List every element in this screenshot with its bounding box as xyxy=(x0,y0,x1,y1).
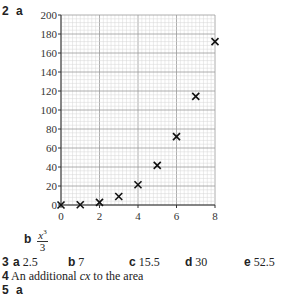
answer-value: 52.5 xyxy=(254,255,275,269)
answer-value: 7 xyxy=(78,255,84,269)
x-tick-label: 4 xyxy=(135,210,141,222)
y-tick-label: 160 xyxy=(41,47,58,59)
y-tick-label: 0 xyxy=(52,199,58,211)
question-number: 3 xyxy=(2,255,9,269)
part-label: a xyxy=(13,255,20,269)
part-label: e xyxy=(244,255,251,269)
part-label: b xyxy=(68,255,75,269)
answer-text: to the area xyxy=(90,269,143,283)
scatter-chart: 02040608010012014016018020002468 xyxy=(0,0,295,230)
answer-value: 30 xyxy=(195,255,207,269)
question-number: 4 xyxy=(2,269,9,283)
question-number: 5 xyxy=(2,283,9,297)
y-tick-label: 80 xyxy=(46,123,58,135)
answer-value: 2.5 xyxy=(23,255,38,269)
y-tick-label: 140 xyxy=(41,66,58,78)
question-5: 5 a xyxy=(2,283,23,297)
question-4: 4 An additional cx to the area xyxy=(2,269,143,283)
x-tick-label: 8 xyxy=(212,210,218,222)
x-tick-label: 2 xyxy=(97,210,103,222)
denominator: 3 xyxy=(37,242,47,253)
question-2b: b x3 3 xyxy=(24,227,48,253)
y-tick-label: 200 xyxy=(41,9,58,21)
part-label: b xyxy=(24,232,31,246)
y-tick-label: 40 xyxy=(46,161,58,173)
x-tick-label: 6 xyxy=(174,210,180,222)
part-label: c xyxy=(129,255,136,269)
x-tick-label: 0 xyxy=(58,210,64,222)
answer-value: 15.5 xyxy=(139,255,160,269)
y-tick-label: 120 xyxy=(41,85,58,97)
part-label: d xyxy=(185,255,192,269)
answer-math: cx xyxy=(80,269,91,283)
y-tick-label: 20 xyxy=(46,180,58,192)
y-tick-label: 180 xyxy=(41,28,58,40)
y-tick-label: 100 xyxy=(41,104,58,116)
y-tick-label: 60 xyxy=(46,142,58,154)
exponent: 3 xyxy=(43,228,47,236)
answer-text: An additional xyxy=(11,269,80,283)
question-3: 3 a 2.5 b 7 c 15.5 d 30 e 52.5 xyxy=(2,255,295,269)
part-label: a xyxy=(16,283,23,297)
fraction-x-cubed-over-3: x3 3 xyxy=(37,227,47,253)
